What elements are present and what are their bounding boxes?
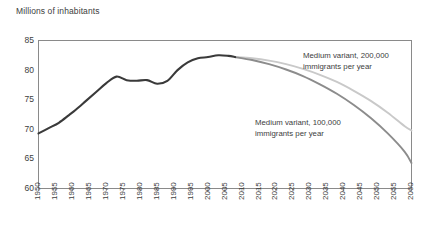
x-tick-label: 2000 <box>204 182 212 200</box>
x-tick-label: 1970 <box>102 182 110 200</box>
x-tick-label: 1950 <box>34 182 42 200</box>
x-tick-label: 2045 <box>356 182 364 200</box>
population-projection-chart: Millions of inhabitants 606570758085 195… <box>0 0 426 233</box>
annotation-variant-100k: Medium variant, 100,000 immigrants per y… <box>255 117 341 140</box>
series-line-0 <box>39 55 236 133</box>
x-tick-label: 2040 <box>339 182 347 200</box>
x-tick-label: 1980 <box>136 182 144 200</box>
x-tick-label: 2035 <box>322 182 330 200</box>
x-tick-label: 1975 <box>119 182 127 200</box>
x-tick-label: 2050 <box>373 182 381 200</box>
y-tick-label: 60 <box>14 184 34 193</box>
x-tick-label: 2010 <box>238 182 246 200</box>
y-tick-label: 85 <box>14 36 34 45</box>
x-tick-label: 2025 <box>288 182 296 200</box>
x-tick-label: 1955 <box>51 182 59 200</box>
y-tick-label: 80 <box>14 66 34 75</box>
x-tick-label: 2005 <box>221 182 229 200</box>
x-tick-label: 2020 <box>271 182 279 200</box>
x-tick-label: 2015 <box>255 182 263 200</box>
x-tick-label: 2030 <box>305 182 313 200</box>
x-tick-label: 2060 <box>407 182 415 200</box>
y-tick-label: 75 <box>14 95 34 104</box>
y-tick-label: 70 <box>14 125 34 134</box>
x-tick-label: 1960 <box>68 182 76 200</box>
x-tick-label: 1990 <box>170 182 178 200</box>
x-tick-label: 1995 <box>187 182 195 200</box>
y-tick-label: 65 <box>14 154 34 163</box>
x-tick-label: 2055 <box>390 182 398 200</box>
annotation-variant-200k: Medium variant, 200,000 immigrants per y… <box>303 50 389 73</box>
x-tick-label: 1965 <box>85 182 93 200</box>
x-tick-label: 1985 <box>153 182 161 200</box>
